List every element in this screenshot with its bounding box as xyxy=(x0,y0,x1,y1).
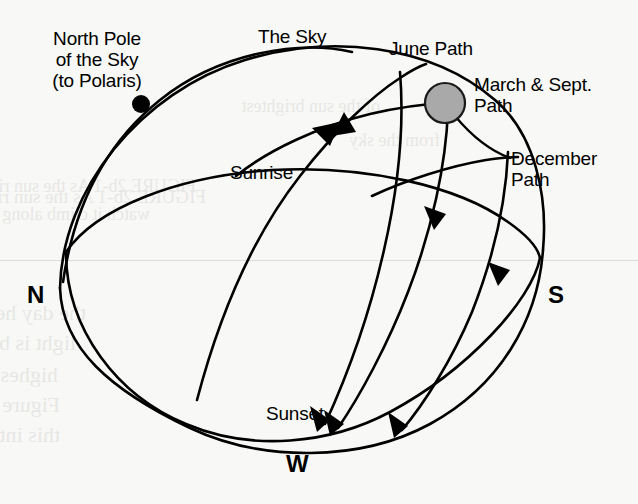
label-june-path: June Path xyxy=(389,38,473,59)
march-sept-arrowhead-mid xyxy=(424,206,446,230)
march-sept-path-descending-arc xyxy=(338,110,448,428)
north-celestial-pole-dot xyxy=(132,95,150,113)
compass-label-north: N xyxy=(27,283,44,307)
figure-canvas: FIGURE 2b-1 As the sun rises, we canwatc… xyxy=(0,0,638,504)
june-path-arc xyxy=(197,64,426,400)
label-the-sky: The Sky xyxy=(258,26,326,47)
label-north-pole-of-the-sky: North Pole of the Sky (to Polaris) xyxy=(22,28,172,91)
label-sunset: Sunset xyxy=(266,403,324,424)
sun-to-december-connector xyxy=(455,116,510,158)
label-march-and-sept-path: March & Sept. Path xyxy=(474,74,634,116)
compass-label-west: W xyxy=(286,452,309,476)
december-path-arrowhead-mid xyxy=(488,262,510,286)
horizon-circle-back xyxy=(66,169,540,258)
label-sunrise: Sunrise xyxy=(230,162,293,183)
december-path-arrowhead-set xyxy=(388,412,408,438)
label-december-path: December Path xyxy=(511,148,631,190)
sun-disc xyxy=(425,83,465,123)
compass-label-south: S xyxy=(548,283,564,307)
